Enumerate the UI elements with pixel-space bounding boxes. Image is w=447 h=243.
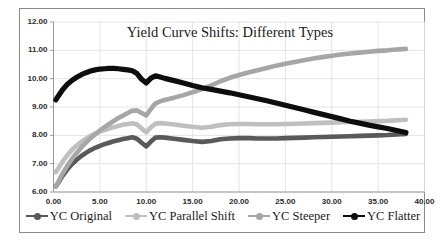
- legend-label: YC Parallel Shift: [149, 210, 235, 223]
- x-axis-tick-label: 35.00: [358, 197, 398, 206]
- legend-item-yc-steeper[interactable]: YC Steeper: [248, 210, 330, 223]
- y-axis-tick-label: 7.00: [8, 159, 48, 168]
- y-axis-tick-label: 10.00: [8, 74, 48, 83]
- x-axis-tick-label: 30.00: [312, 197, 352, 206]
- y-axis-tick-label: 12.00: [8, 17, 48, 26]
- legend-item-yc-parallel-shift[interactable]: YC Parallel Shift: [125, 210, 235, 223]
- x-axis-tick-label: 15.00: [173, 197, 213, 206]
- y-axis-tick-label: 11.00: [8, 45, 48, 54]
- legend-label: YC Steeper: [272, 210, 330, 223]
- y-axis-tick-label: 8.00: [8, 130, 48, 139]
- chart-title: Yield Curve Shifts: Different Types: [80, 24, 380, 41]
- legend-marker-icon: [125, 211, 147, 221]
- x-axis-tick-label: 0.00: [34, 197, 74, 206]
- legend-marker-icon: [343, 211, 365, 221]
- x-axis-tick-label: 5.00: [80, 197, 120, 206]
- y-axis-tick-label: 6.00: [8, 187, 48, 196]
- legend-marker-icon: [248, 211, 270, 221]
- legend-item-yc-flatter[interactable]: YC Flatter: [343, 210, 420, 223]
- chart-legend: YC OriginalYC Parallel ShiftYC SteeperYC…: [28, 210, 418, 223]
- x-axis-tick-label: 10.00: [126, 197, 166, 206]
- x-axis-tick-label: 40.00: [405, 197, 445, 206]
- y-axis-tick-label: 9.00: [8, 102, 48, 111]
- legend-item-yc-original[interactable]: YC Original: [26, 210, 112, 223]
- x-axis-tick-label: 20.00: [219, 197, 259, 206]
- x-axis-tick-label: 25.00: [265, 197, 305, 206]
- legend-marker-icon: [26, 211, 48, 221]
- legend-label: YC Original: [50, 210, 112, 223]
- chart-figure: Yield Curve Shifts: Different Types 6.00…: [0, 0, 447, 243]
- legend-label: YC Flatter: [367, 210, 420, 223]
